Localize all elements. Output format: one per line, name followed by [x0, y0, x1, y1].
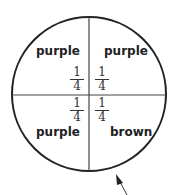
fraction-top-right: 1 4 — [95, 66, 109, 93]
fraction-denominator: 4 — [70, 111, 84, 124]
fraction-numerator: 1 — [95, 66, 109, 80]
section-label-top-left: purple — [36, 44, 80, 58]
fraction-bottom-left: 1 4 — [70, 97, 84, 124]
fraction-top-left: 1 4 — [70, 66, 84, 93]
section-label-bottom-left: purple — [36, 125, 80, 139]
fraction-denominator: 4 — [95, 111, 109, 124]
spinner-graphic — [0, 0, 176, 195]
fraction-denominator: 4 — [95, 80, 109, 93]
fraction-denominator: 4 — [70, 80, 84, 93]
section-label-bottom-right: brown — [110, 125, 152, 139]
section-label-top-right: purple — [104, 44, 148, 58]
fraction-bottom-right: 1 4 — [95, 97, 109, 124]
fraction-numerator: 1 — [95, 97, 109, 111]
fraction-numerator: 1 — [70, 66, 84, 80]
pointer-arrow-icon — [116, 174, 127, 195]
fraction-numerator: 1 — [70, 97, 84, 111]
